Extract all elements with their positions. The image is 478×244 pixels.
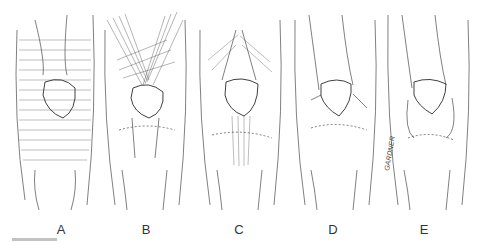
panel-label-b: B <box>136 222 156 237</box>
panel-label-a: A <box>51 222 71 237</box>
panel-b-illustration <box>97 0 192 215</box>
panel-a-illustration <box>5 0 100 215</box>
panel-e-illustration <box>380 0 475 215</box>
credit-strip <box>12 238 57 241</box>
panel-c-illustration <box>192 0 287 215</box>
panel-label-d: D <box>323 222 343 237</box>
knee-anatomy-figure: GARDNER A B C D E <box>0 0 478 244</box>
panel-d-illustration <box>287 0 382 215</box>
panel-label-c: C <box>229 222 249 237</box>
panel-label-e: E <box>414 222 434 237</box>
